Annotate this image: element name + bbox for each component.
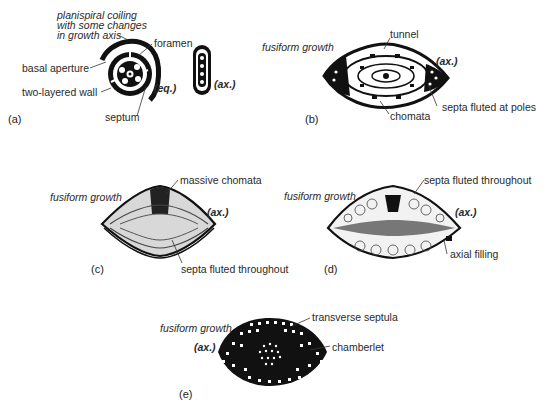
fusiform-test-e	[218, 318, 327, 386]
label-septa-fluted-at-poles: septa fluted at poles	[442, 101, 536, 113]
panel-label-d: (d)	[324, 263, 337, 275]
planispiral-test-axial	[193, 45, 211, 95]
label-chamberlet: chamberlet	[332, 341, 384, 353]
label-septa-fluted-throughout-c: septa fluted throughout	[181, 263, 288, 275]
label-axial-section-e: (ax.)	[194, 341, 216, 353]
label-basal-aperture: basal aperture	[22, 62, 89, 74]
caption-planispiral-line3: in growth axis	[57, 29, 121, 41]
label-axial-section-a: (ax.)	[214, 78, 236, 90]
label-axial-section-c: (ax.)	[207, 206, 229, 218]
label-fusiform-growth-e: fusiform growth	[160, 322, 232, 334]
label-septa-fluted-throughout-d: septa fluted throughout	[424, 174, 531, 186]
panel-label-b: (b)	[305, 113, 318, 125]
fusiform-test-b	[324, 44, 448, 107]
label-fusiform-growth-c: fusiform growth	[50, 191, 122, 203]
label-massive-chomata: massive chomata	[180, 174, 262, 186]
label-fusiform-growth-b: fusiform growth	[262, 41, 334, 53]
label-axial-section-b: (ax.)	[436, 55, 458, 67]
label-foramen: foramen	[154, 37, 193, 49]
label-equatorial-section: (eq.)	[154, 82, 176, 94]
label-two-layered-wall: two-layered wall	[22, 86, 97, 98]
label-axial-filling: axial filling	[450, 248, 498, 260]
label-chomata: chomata	[390, 110, 430, 122]
planispiral-test-equatorial	[102, 41, 159, 100]
label-septum: septum	[105, 111, 139, 123]
label-transverse-septula: transverse septula	[312, 311, 398, 323]
label-tunnel: tunnel	[390, 28, 419, 40]
label-axial-section-d: (ax.)	[455, 206, 477, 218]
panel-label-e: (e)	[179, 388, 192, 400]
panel-label-a: (a)	[8, 113, 21, 125]
panel-label-c: (c)	[91, 263, 104, 275]
label-fusiform-growth-d: fusiform growth	[284, 190, 356, 202]
